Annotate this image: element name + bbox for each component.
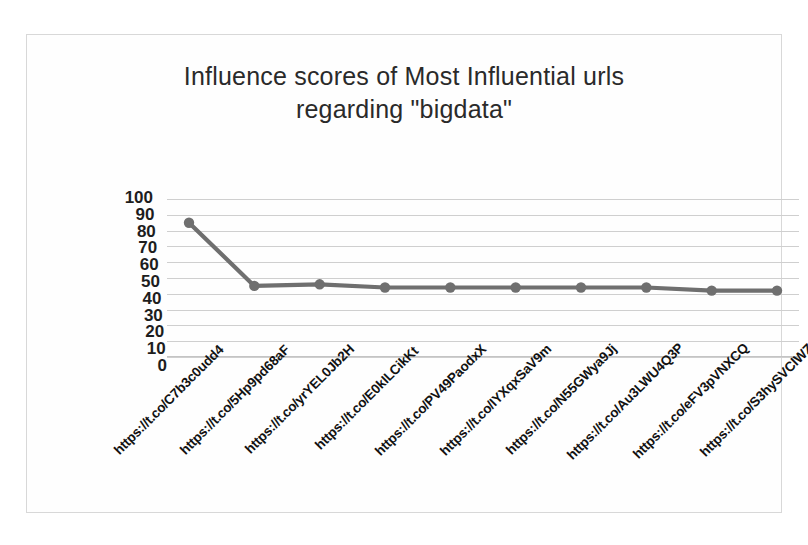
x-axis-tick-label-text: https://t.co/S3hySVClWZ <box>697 341 808 460</box>
y-axis-tick-label: 60 <box>140 256 159 273</box>
data-point-marker <box>445 282 455 292</box>
y-axis-tick-label: 50 <box>141 273 160 290</box>
y-axis-tick-label: 70 <box>138 239 157 256</box>
data-point-marker <box>510 282 520 292</box>
x-axis-tick-label: https://t.co/eFV3pVNXCQ <box>630 340 751 461</box>
y-axis-tick-label: 20 <box>145 323 164 340</box>
x-axis-tick-label: https://t.co/S3hySVClWZ <box>697 341 808 460</box>
data-point-marker <box>772 285 782 295</box>
data-point-marker <box>249 281 259 291</box>
data-point-marker <box>706 285 716 295</box>
series-polyline <box>189 223 777 291</box>
y-axis-tick-label: 30 <box>144 307 163 324</box>
x-axis-tick-label: https://t.co/Au3LWU4Q3P <box>564 340 686 462</box>
x-axis-tick-label: https://t.co/PV49PaodxX <box>372 341 489 458</box>
x-axis-tick-label-text: https://t.co/N55GWya9Jj <box>503 342 619 458</box>
data-point-marker <box>184 218 194 228</box>
y-axis-tick-label: 40 <box>142 290 161 307</box>
x-axis-tick-label-text: https://t.co/IYXqxSaV9m <box>437 341 554 458</box>
x-axis-tick-label-text: https://t.co/5Hp9pd68aF <box>177 342 293 458</box>
x-axis-tick-label: https://t.co/5Hp9pd68aF <box>177 342 293 458</box>
chart-title-line-1: Influence scores of Most Influential url… <box>27 60 781 93</box>
y-axis-tick-label: 90 <box>135 206 154 223</box>
y-axis-tick-label: 100 <box>125 189 153 206</box>
x-axis-labels: https://t.co/C7b3c0udd4https://t.co/5Hp9… <box>167 361 799 541</box>
chart-title: Influence scores of Most Influential url… <box>27 60 781 126</box>
x-axis-tick-label: https://t.co/yrYEL0Jb2H <box>242 342 357 457</box>
plot-area <box>167 199 799 357</box>
x-axis-tick-label-text: https://t.co/Au3LWU4Q3P <box>564 340 686 462</box>
x-axis-tick-label-text: https://t.co/eFV3pVNXCQ <box>630 340 751 461</box>
data-point-marker <box>380 282 390 292</box>
y-axis-tick-label: 80 <box>137 223 156 240</box>
x-axis-tick-label: https://t.co/IYXqxSaV9m <box>437 341 554 458</box>
y-axis-labels: 1009080706050403020100 <box>111 185 167 375</box>
data-point-marker <box>641 282 651 292</box>
chart-frame: Influence scores of Most Influential url… <box>26 34 782 513</box>
data-point-marker <box>576 282 586 292</box>
series-line-chart <box>167 199 799 357</box>
x-axis-tick-label-text: https://t.co/yrYEL0Jb2H <box>242 342 357 457</box>
y-axis-tick-label: 10 <box>147 340 166 357</box>
x-axis-tick-label-text: https://t.co/PV49PaodxX <box>372 341 489 458</box>
chart-title-line-2: regarding "bigdata" <box>27 93 781 126</box>
x-axis-tick-label: https://t.co/N55GWya9Jj <box>503 342 619 458</box>
y-axis-tick-label: 0 <box>158 357 167 374</box>
data-point-marker <box>314 279 324 289</box>
